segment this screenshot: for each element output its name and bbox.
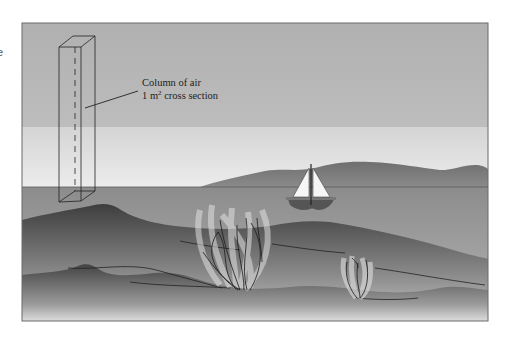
air-column-diagram: Column of air 1 m2 cross section xyxy=(0,0,508,344)
label-line-1: Column of air xyxy=(142,77,201,88)
label-line-2: 1 m2 cross section xyxy=(142,89,219,101)
